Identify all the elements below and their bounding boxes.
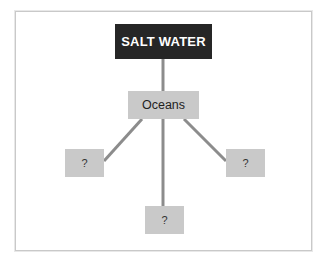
edge-oceans-to-left	[104, 119, 142, 161]
child-node-label: Oceans	[142, 98, 185, 112]
root-node-salt-water: SALT WATER	[115, 24, 212, 59]
leaf-node-label: ?	[242, 157, 248, 169]
leaf-node-label: ?	[161, 214, 167, 226]
leaf-node-label: ?	[81, 157, 87, 169]
root-node-label: SALT WATER	[121, 34, 206, 49]
child-node-oceans: Oceans	[128, 91, 199, 119]
leaf-node-left: ?	[65, 149, 104, 177]
leaf-node-right: ?	[226, 149, 265, 177]
edge-oceans-to-right	[184, 119, 226, 161]
leaf-node-bottom: ?	[145, 206, 184, 234]
